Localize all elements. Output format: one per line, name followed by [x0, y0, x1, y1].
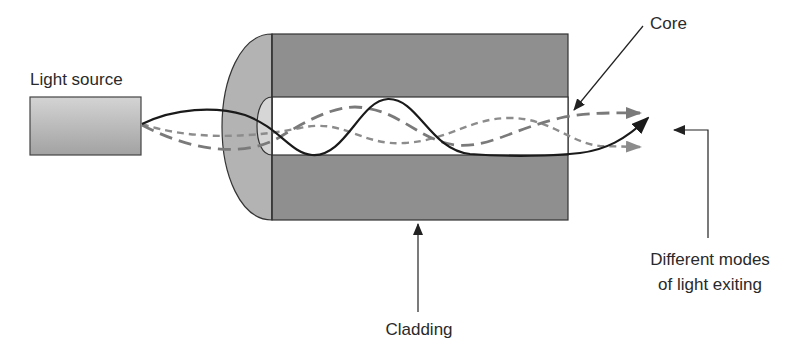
core-channel — [272, 97, 568, 155]
light-source-label: Light source — [30, 70, 123, 90]
exit-modes-pointer-arrow — [674, 130, 708, 238]
light-source-box — [30, 97, 141, 155]
exit-modes-label-line1: Different modes — [630, 250, 790, 270]
exit-modes-label-line2: of light exiting — [630, 275, 790, 295]
core-label: Core — [650, 14, 687, 34]
core-pointer-arrow — [574, 26, 643, 110]
fiber-optic-diagram — [0, 0, 794, 358]
cladding-label: Cladding — [373, 320, 465, 340]
